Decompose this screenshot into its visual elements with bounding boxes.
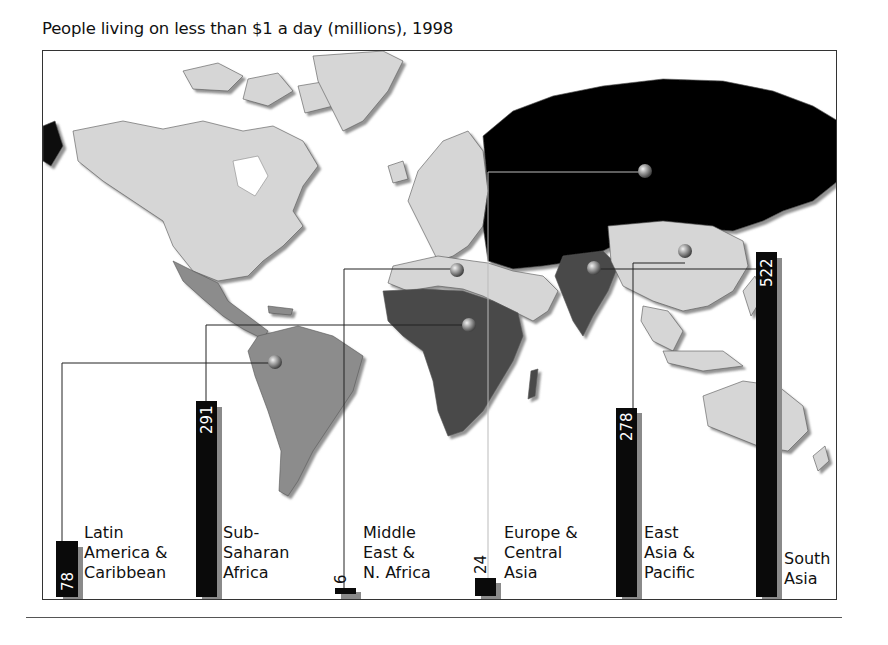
bar-value-middle-east: 6 (332, 574, 350, 584)
bottom-rule (26, 617, 842, 618)
bar-value-europe-central-asia: 24 (472, 555, 490, 574)
chart-frame: 78 Latin America & Caribbean 291 Sub- Sa… (42, 50, 837, 600)
bar-value-latin-america: 78 (59, 572, 77, 591)
chart-title: People living on less than $1 a day (mil… (42, 19, 453, 38)
world-map (43, 51, 837, 600)
region-label-middle-east: Middle East & N. Africa (363, 523, 431, 583)
bar-value-south-asia: 522 (758, 258, 776, 287)
bar-middle-east (335, 588, 356, 594)
bar-value-sub-saharan-africa: 291 (198, 405, 216, 434)
region-label-europe-central-asia: Europe & Central Asia (504, 523, 578, 583)
region-label-south-asia: South Asia (784, 549, 831, 589)
region-label-sub-saharan-africa: Sub- Saharan Africa (223, 523, 289, 583)
bar-europe-central-asia (475, 578, 496, 596)
bar-south-asia (756, 252, 777, 597)
bar-value-east-asia-pacific: 278 (618, 412, 636, 441)
region-label-latin-america: Latin America & Caribbean (84, 523, 168, 583)
region-label-east-asia-pacific: East Asia & Pacific (644, 523, 695, 583)
